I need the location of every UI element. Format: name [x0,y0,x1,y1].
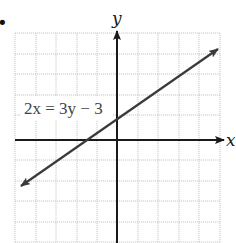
y-axis-label: y [111,8,122,28]
x-axis-label: x [226,130,236,150]
bullet-marker: • [0,12,8,33]
graph-figure: • x y 2x = 3y − 3 [0,0,236,243]
equation-label: 2x = 3y − 3 [24,99,103,118]
